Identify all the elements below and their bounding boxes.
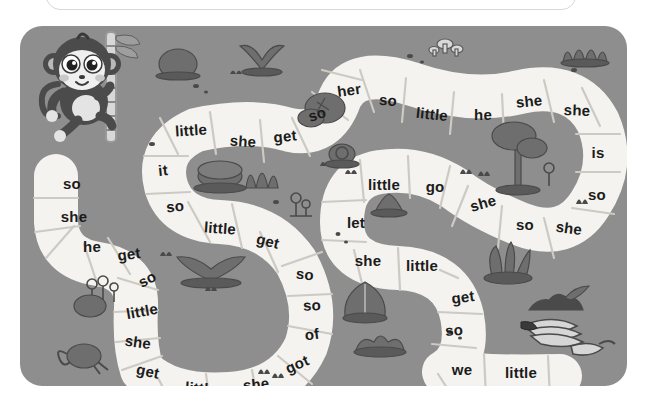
word-tile[interactable]: we <box>452 362 472 377</box>
word-tile[interactable]: she <box>242 375 270 386</box>
word-tile[interactable]: he <box>474 107 492 122</box>
word-tile[interactable]: she <box>124 333 152 352</box>
word-tile[interactable]: it <box>157 162 168 178</box>
monkey-icon <box>32 30 142 150</box>
word-tile[interactable]: she <box>515 92 543 110</box>
word-tile[interactable]: let <box>347 215 365 230</box>
word-tile[interactable]: she <box>229 133 256 150</box>
word-tile[interactable]: she <box>61 209 87 224</box>
word-tile[interactable]: little <box>415 105 448 123</box>
word-tile[interactable]: so <box>588 187 606 202</box>
word-tile[interactable]: so <box>63 176 81 191</box>
bananas-icon <box>511 306 621 368</box>
word-tile[interactable]: she <box>355 253 381 268</box>
word-tile[interactable]: go <box>426 179 445 194</box>
word-tile[interactable]: little <box>174 121 207 138</box>
word-tile[interactable]: little <box>505 365 537 380</box>
word-tile[interactable]: she <box>555 219 583 238</box>
word-tile[interactable]: so <box>516 217 534 232</box>
word-tile[interactable]: is <box>592 145 605 160</box>
word-tile[interactable]: so <box>295 266 314 283</box>
word-tile[interactable]: so <box>379 92 398 108</box>
word-tile[interactable]: get <box>117 245 142 263</box>
word-tile[interactable]: little <box>203 219 236 236</box>
word-tile[interactable]: her <box>336 81 362 99</box>
top-rounded-panel <box>46 0 576 10</box>
board-inner: soshehegetsolittleshegetlittleshegotofso… <box>20 26 627 386</box>
word-tile[interactable]: he <box>83 239 101 254</box>
word-tile[interactable]: little <box>368 177 400 192</box>
word-tile[interactable]: of <box>304 326 321 343</box>
game-board[interactable]: soshehegetsolittleshegetlittleshegotofso… <box>20 26 627 386</box>
word-tile[interactable]: she <box>564 102 591 118</box>
word-tile[interactable]: get <box>135 361 161 380</box>
screenshot-root: soshehegetsolittleshegetlittleshegotofso… <box>0 0 645 408</box>
word-tile[interactable]: little <box>184 379 217 386</box>
word-tile[interactable]: so <box>303 297 321 313</box>
word-tile[interactable]: so <box>165 198 184 215</box>
word-tile[interactable]: get <box>273 127 298 144</box>
word-tile[interactable]: get <box>451 288 476 306</box>
word-tile[interactable]: so <box>445 322 464 338</box>
word-tile[interactable]: little <box>406 258 438 273</box>
